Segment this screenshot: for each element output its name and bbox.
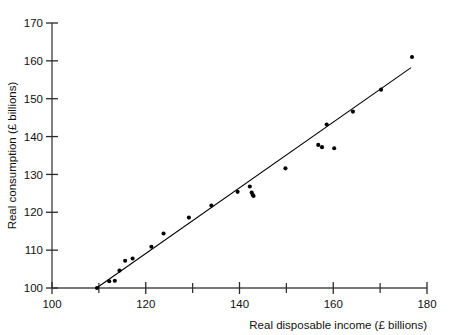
data-point: [113, 279, 117, 283]
y-tick-label: 100: [24, 282, 43, 294]
data-point: [320, 145, 324, 149]
data-point: [131, 256, 135, 260]
data-point: [283, 166, 287, 170]
data-point: [248, 184, 252, 188]
y-axis-title: Real consumption (£ billions): [6, 82, 18, 230]
data-point: [316, 143, 320, 147]
y-tick-label: 120: [24, 206, 43, 218]
x-tick-label: 160: [324, 298, 343, 310]
x-tick-label: 120: [136, 298, 155, 310]
x-tick-label: 180: [417, 298, 436, 310]
data-point: [325, 122, 329, 126]
x-tick-label: 100: [42, 298, 61, 310]
scatter-plot-figure: 100110120130140150160170100120140160180R…: [0, 0, 450, 335]
data-point: [107, 279, 111, 283]
x-axis-title: Real disposable income (£ billions): [249, 319, 427, 331]
axis-labels-group: 100110120130140150160170100120140160180R…: [6, 17, 437, 331]
y-tick-label: 150: [24, 93, 43, 105]
data-points-group: [95, 55, 414, 290]
data-point: [332, 146, 336, 150]
data-point: [162, 231, 166, 235]
y-tick-label: 160: [24, 55, 43, 67]
axes-group: [46, 23, 427, 294]
data-point: [252, 194, 256, 198]
data-point: [351, 110, 355, 114]
y-tick-label: 140: [24, 131, 43, 143]
x-tick-label: 140: [230, 298, 249, 310]
data-point: [379, 88, 383, 92]
regression-line: [97, 68, 412, 288]
data-point: [149, 245, 153, 249]
y-tick-label: 170: [24, 17, 43, 29]
data-point: [95, 286, 99, 290]
y-tick-label: 130: [24, 169, 43, 181]
data-point: [209, 203, 213, 207]
chart-canvas: 100110120130140150160170100120140160180R…: [0, 0, 450, 335]
data-point: [117, 269, 121, 273]
fit-line: [97, 68, 412, 288]
data-point: [123, 259, 127, 263]
data-point: [410, 55, 414, 59]
data-point: [236, 190, 240, 194]
data-point: [187, 216, 191, 220]
y-tick-label: 110: [25, 244, 43, 256]
